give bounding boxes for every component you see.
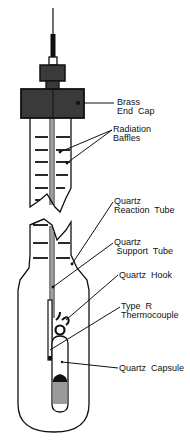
apparatus-diagram [0,0,190,444]
label-brass-end-cap: Brass End Cap [117,98,155,116]
fitting-nut [40,65,65,81]
label-radiation-baffles: Radiation Baffles [113,125,151,143]
label-quartz-reaction-tube: Quartz Reaction Tube [114,197,175,215]
label-quartz-capsule: Quartz Capsule [119,364,184,373]
fitting-neck [46,81,59,89]
quartz-hook-shape [56,312,69,325]
label-quartz-hook: Quartz Hook [119,271,172,280]
label-type-r-thermocouple: Type R Thermocouple [121,302,179,320]
hook-ring [56,326,65,335]
sample-fill [53,382,68,404]
radiation-baffles-lower [33,225,70,258]
radiation-baffles-upper [35,137,70,200]
rod-collar [49,57,57,65]
label-quartz-support-tube: Quartz Support Tube [114,238,173,256]
rod-sheath [51,34,56,58]
